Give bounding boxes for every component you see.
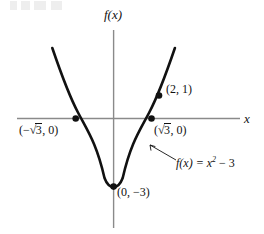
label-vertex: (0, −3): [117, 186, 150, 198]
point-marker-vertex: [110, 183, 117, 190]
radicand-positive: 3: [164, 123, 171, 137]
label-root-negative-open: (−: [19, 123, 30, 137]
label-root-negative: (−√3, 0): [19, 123, 58, 137]
radical-negative: √3: [30, 123, 43, 137]
equation-lhs: f(x) = x: [176, 156, 212, 170]
x-axis-label: x: [244, 112, 250, 125]
parabola-figure: f(x) x (2, 1) (−√3, 0) (√3, 0) (0, −3) f…: [0, 0, 264, 234]
label-root-positive-close: , 0): [171, 123, 187, 137]
label-point-2-1: (2, 1): [166, 83, 192, 95]
equation-leader-line: [150, 145, 176, 160]
point-marker-root-positive: [148, 115, 155, 122]
point-marker-root-negative: [72, 115, 79, 122]
radical-positive: √3: [158, 123, 171, 137]
equation-rhs: − 3: [216, 156, 235, 170]
y-axis-label: f(x): [104, 8, 122, 21]
label-root-positive: (√3, 0): [154, 123, 187, 137]
point-marker-2-1: [156, 92, 163, 99]
radicand-negative: 3: [35, 123, 42, 137]
label-equation: f(x) = x2 − 3: [176, 156, 235, 169]
label-root-negative-close: , 0): [42, 123, 58, 137]
